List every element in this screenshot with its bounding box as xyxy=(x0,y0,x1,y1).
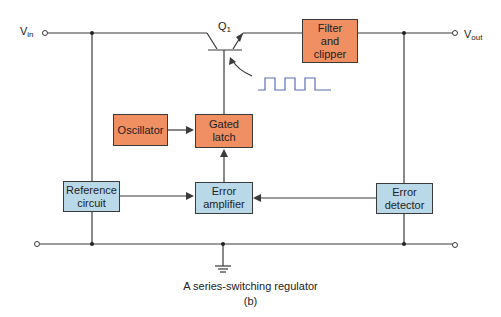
figure-caption: A series-switching regulator xyxy=(0,280,501,292)
gated-latch-block: Gated latch xyxy=(195,114,253,148)
error-amplifier-block: Error amplifier xyxy=(195,182,253,214)
pulse-waveform-icon xyxy=(258,78,331,90)
vin-label: Vin xyxy=(20,25,34,39)
filter-clipper-block: Filter and clipper xyxy=(302,19,358,63)
circuit-wiring xyxy=(0,0,501,317)
reference-circuit-block: Reference circuit xyxy=(63,181,120,212)
transistor-q1-label: Q1 xyxy=(218,20,231,34)
vout-label: Vout xyxy=(464,28,482,42)
figure-subfigure-label: (b) xyxy=(0,295,501,307)
error-detector-block: Error detector xyxy=(376,183,433,214)
oscillator-block: Oscillator xyxy=(113,114,168,146)
